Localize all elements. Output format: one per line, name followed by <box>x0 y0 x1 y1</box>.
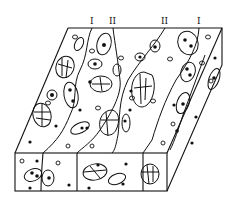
clast-5 <box>100 110 119 136</box>
zone-labels: I II II I <box>90 16 201 26</box>
zone-label-1: I <box>90 16 94 26</box>
zone-boundaries <box>43 28 205 153</box>
clast-7 <box>82 162 108 182</box>
clast-2 <box>90 76 112 92</box>
cracked-clasts <box>30 54 159 184</box>
zone-label-3: II <box>161 16 169 26</box>
block-diagram: I II II I <box>0 0 236 208</box>
clast-6 <box>141 164 159 184</box>
clast-1 <box>53 54 77 81</box>
zone-label-2: II <box>109 16 117 26</box>
clast-4 <box>30 101 54 129</box>
zone-label-4: I <box>197 16 201 26</box>
block-outline <box>15 28 222 191</box>
